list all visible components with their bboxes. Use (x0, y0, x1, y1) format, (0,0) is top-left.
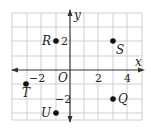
x-tick-2: 2 (95, 72, 102, 85)
svg-text:T: T (22, 86, 31, 100)
svg-text:R: R (41, 34, 51, 48)
x-tick-4: 4 (124, 72, 131, 85)
svg-text:U: U (41, 106, 52, 120)
svg-text:S: S (116, 43, 124, 57)
coordinate-plane: y x O −2 2 4 2 −2 R S T Q U (0, 0, 151, 130)
svg-text:Q: Q (118, 92, 128, 106)
y-axis-label: y (73, 8, 81, 22)
origin-label: O (58, 71, 68, 85)
y-tick-2: 2 (61, 35, 68, 48)
x-axis-label: x (135, 55, 142, 69)
y-tick-neg2: −2 (55, 93, 71, 106)
x-tick-neg2: −2 (29, 72, 45, 85)
